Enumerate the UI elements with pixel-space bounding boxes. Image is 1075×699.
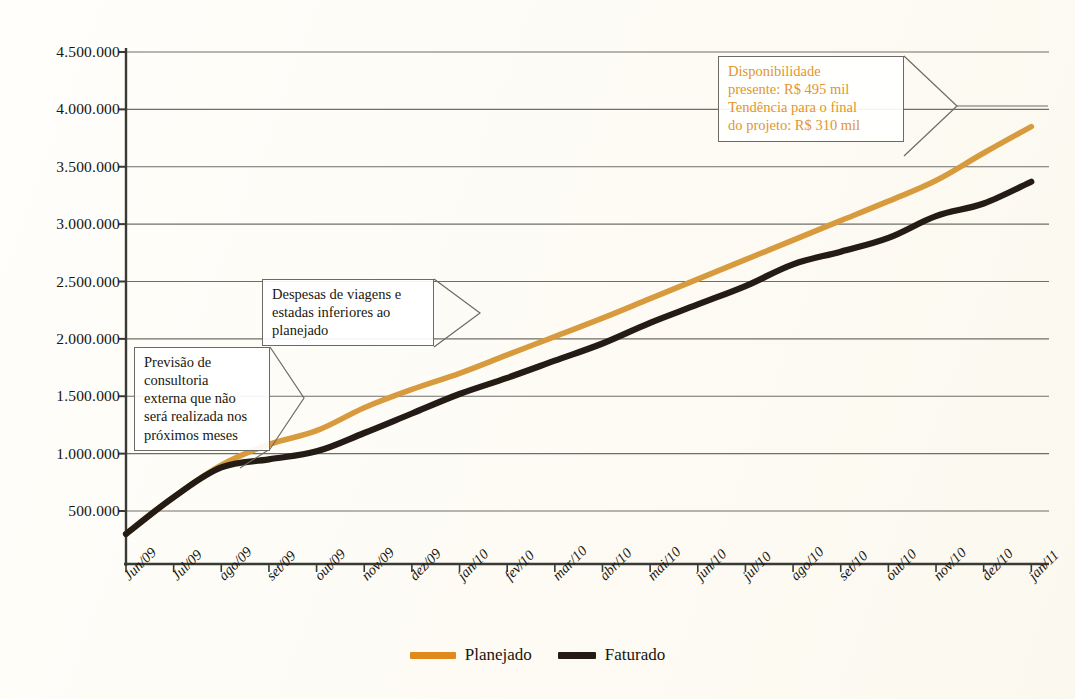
annotation-line: próximos meses	[144, 426, 260, 444]
y-axis-tick-label: 1.500.000	[56, 387, 120, 405]
annotation-line: Previsão de	[144, 353, 260, 371]
annotation-callout-previsao: Previsão deconsultoriaexterna que nãoser…	[134, 347, 270, 451]
annotation-line: Tendência para o final	[728, 98, 894, 116]
legend-swatch	[410, 652, 456, 659]
y-axis-tick-label: 3.000.000	[56, 215, 120, 233]
annotation-line: será realizada nos	[144, 407, 260, 425]
y-axis-tick-label: 3.500.000	[56, 158, 120, 176]
y-axis-tick-label: 1.000.000	[56, 445, 120, 463]
annotation-callout-despesas: Despesas de viagens eestadas inferiores …	[262, 279, 434, 346]
legend-label: Planejado	[465, 645, 532, 665]
annotation-callout-disponibilidade: Disponibilidadepresente: R$ 495 milTendê…	[718, 56, 904, 142]
y-axis-tick-label: 2.000.000	[56, 330, 120, 348]
y-axis-tick-label: 500.000	[68, 502, 120, 520]
annotation-line: Despesas de viagens e	[272, 285, 424, 303]
y-axis-tick-label: 4.000.000	[56, 100, 120, 118]
annotation-line: presente: R$ 495 mil	[728, 80, 894, 98]
legend-item-faturado: Faturado	[558, 645, 665, 665]
chart-legend: PlanejadoFaturado	[0, 645, 1075, 665]
y-axis-tick-label: 2.500.000	[56, 273, 120, 291]
annotation-line: do projeto: R$ 310 mil	[728, 116, 894, 134]
legend-label: Faturado	[605, 645, 665, 665]
annotation-line: externa que não	[144, 389, 260, 407]
annotation-line: consultoria	[144, 371, 260, 389]
legend-swatch	[558, 652, 596, 659]
legend-item-planejado: Planejado	[410, 645, 532, 665]
annotation-line: Disponibilidade	[728, 62, 894, 80]
y-axis-tick-label: 4.500.000	[56, 43, 120, 61]
annotation-line: planejado	[272, 321, 424, 339]
chart-page: 500.0001.000.0001.500.0002.000.0002.500.…	[0, 0, 1075, 699]
annotation-line: estadas inferiores ao	[272, 303, 424, 321]
